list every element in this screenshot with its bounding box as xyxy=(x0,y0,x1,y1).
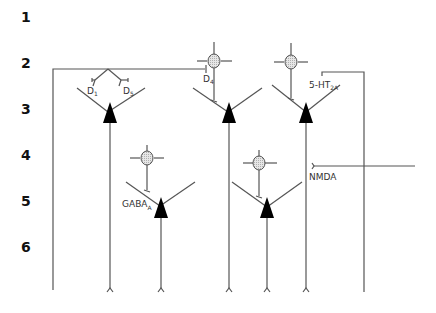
soma-gaba xyxy=(154,197,168,218)
interneuron-gaba xyxy=(141,151,153,165)
interneuron-nmda xyxy=(253,156,265,170)
receptor-label-gaba-a: GABAA xyxy=(122,199,152,211)
receptor-label-d5: D5 xyxy=(123,86,134,97)
soma-d1-d5 xyxy=(103,102,117,123)
receptor-label-5ht2a: 5-HT2A xyxy=(309,80,339,91)
cortical-circuit-diagram: D1 D5 D4 5-HT2A GABAA NMDA xyxy=(0,0,436,313)
interneuron-5ht2a xyxy=(285,55,297,69)
receptor-label-d4: D4 xyxy=(203,74,214,85)
soma-nmda xyxy=(260,197,274,218)
receptor-label-d1: D1 xyxy=(87,86,98,97)
interneuron-d4 xyxy=(208,54,220,68)
pyramidal-neuron-gaba-a xyxy=(126,145,195,292)
soma-5ht2a xyxy=(299,102,313,123)
soma-d4 xyxy=(222,102,236,123)
receptor-label-nmda: NMDA xyxy=(309,172,337,182)
